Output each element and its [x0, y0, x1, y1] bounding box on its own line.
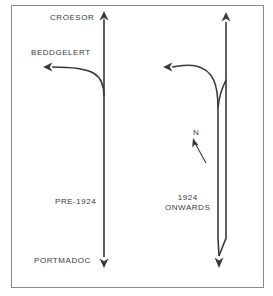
caption-pre-1924: PRE-1924: [55, 197, 96, 207]
post1924-bottom-arrowhead-icon: [215, 258, 224, 269]
diagram-figure: CROESOR BEDDGELERT PORTMADOC PRE-1924 19…: [0, 0, 273, 296]
beddgelert-arrowhead-icon: [43, 63, 53, 72]
post1924-left-arrowhead-icon: [163, 63, 173, 72]
label-croesor: CROESOR: [50, 13, 94, 23]
post1924-inner-line: [218, 108, 219, 256]
label-portmadoc: PORTMADOC: [34, 256, 91, 266]
portmadoc-arrowhead-icon: [100, 259, 109, 269]
north-arrow-head: [192, 138, 198, 148]
post1924-top-arrowhead-icon: [222, 12, 231, 22]
post1924-crossover: [218, 80, 226, 108]
post1924-outer-line: [219, 22, 226, 256]
caption-1924-onwards-line2: ONWARDS: [165, 203, 210, 213]
post1924-branch-upper: [172, 65, 196, 67]
north-arrow-icon: [192, 138, 206, 163]
caption-1924-onwards: 1924 ONWARDS: [165, 193, 210, 213]
post-1924-diagram: [163, 12, 231, 268]
caption-1924-onwards-line1: 1924: [165, 193, 210, 203]
label-north: N: [193, 128, 199, 138]
post1924-branch-lower: [196, 66, 218, 108]
pre1924-beddgelert-branch: [52, 67, 104, 96]
diagram-artwork: [0, 0, 273, 296]
north-arrow-shaft: [195, 143, 206, 163]
label-beddgelert: BEDDGELERT: [31, 48, 91, 58]
